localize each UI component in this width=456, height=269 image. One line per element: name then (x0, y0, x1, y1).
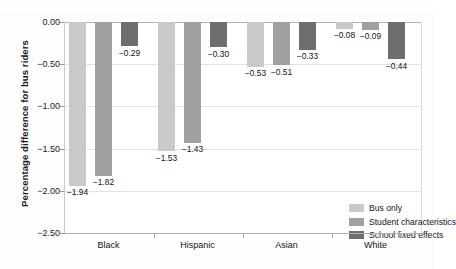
bar-value-label: −1.82 (93, 177, 114, 187)
bar-value-label: −0.33 (297, 51, 318, 61)
bar: −0.53 (247, 22, 264, 67)
bar-rect (95, 22, 112, 176)
y-axis-tick-label: −2.00 (0, 186, 66, 196)
y-axis-title: Percentage difference for bus riders (19, 14, 30, 234)
bar-rect (247, 22, 264, 67)
y-axis-tick-label: −0.50 (0, 59, 66, 69)
bar: −1.82 (95, 22, 112, 176)
bar-value-label: −1.94 (67, 187, 88, 197)
legend-label: Bus only (369, 203, 402, 213)
x-axis-category-label: Hispanic (180, 240, 215, 250)
legend-item[interactable]: Student characteristics (349, 217, 456, 227)
gridline (65, 64, 421, 65)
bar-rect (362, 22, 379, 30)
bar-value-label: −0.44 (386, 61, 407, 71)
bar-value-label: −0.09 (360, 31, 381, 41)
gridline (65, 149, 421, 150)
y-axis-tick-label: 0.00 (0, 17, 66, 27)
bar-value-label: −1.53 (156, 153, 177, 163)
bar-rect (388, 22, 405, 59)
x-axis-category-label: White (364, 240, 387, 250)
bar-value-label: −0.29 (119, 48, 140, 58)
bar: −0.30 (210, 22, 227, 47)
x-axis-category-label: Black (97, 240, 119, 250)
bar-value-label: −0.30 (208, 49, 229, 59)
bar-rect (273, 22, 290, 65)
bar-rect (299, 22, 316, 50)
gridline (65, 191, 421, 192)
bar: −0.44 (388, 22, 405, 59)
bar: −1.94 (69, 22, 86, 186)
legend-label: Student characteristics (369, 217, 456, 227)
bar-rect (336, 22, 353, 29)
legend-item[interactable]: Bus only (349, 203, 456, 213)
legend-swatch-icon (349, 218, 364, 226)
y-axis-tick-label: −1.50 (0, 144, 66, 154)
legend-item[interactable]: School fixed effects (349, 230, 456, 240)
bar: −0.33 (299, 22, 316, 50)
bar: −1.43 (184, 22, 201, 143)
bar-value-label: −0.53 (245, 68, 266, 78)
bar-value-label: −0.51 (271, 67, 292, 77)
bar-rect (121, 22, 138, 46)
bar: −0.51 (273, 22, 290, 65)
bar-rect (158, 22, 175, 151)
bar: −0.09 (362, 22, 379, 30)
bar-value-label: −1.43 (182, 144, 203, 154)
bar-rect (184, 22, 201, 143)
chart-legend: Bus onlyStudent characteristicsSchool fi… (349, 203, 456, 240)
legend-swatch-icon (349, 204, 364, 212)
plot-area: −1.94−1.82−0.29−1.53−1.43−0.30−0.53−0.51… (64, 22, 422, 233)
legend-label: School fixed effects (369, 230, 443, 240)
y-axis-tick-label: −1.00 (0, 101, 66, 111)
y-axis-tick-label: −2.50 (0, 228, 66, 238)
bar-rect (210, 22, 227, 47)
bar-rect (69, 22, 86, 186)
gridline (65, 106, 421, 107)
bar-value-label: −0.08 (334, 30, 355, 40)
bar: −0.08 (336, 22, 353, 29)
bar: −1.53 (158, 22, 175, 151)
x-axis-category-label: Asian (275, 240, 298, 250)
x-axis-line (64, 233, 421, 234)
bar: −0.29 (121, 22, 138, 46)
scan-artifact-band (0, 0, 434, 11)
